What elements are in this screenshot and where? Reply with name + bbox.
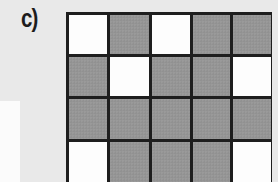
grid-cell-r1-c1-white (69, 15, 107, 54)
grid-cell-r4-c1-white (69, 142, 107, 182)
side-panel-fragment (0, 101, 20, 182)
grid-cell-r3-c1-gray (69, 99, 107, 139)
grid-cell-r1-c4-gray (193, 15, 230, 54)
grid-cell-r3-c5-gray (233, 99, 271, 139)
shaded-grid (66, 12, 272, 182)
grid-cell-r1-c5-gray (233, 15, 271, 54)
grid-cell-r2-c2-white (110, 57, 149, 96)
grid-cell-r2-c1-gray (69, 57, 107, 96)
grid-cell-r3-c4-gray (193, 99, 230, 139)
grid-cell-r3-c3-gray (152, 99, 190, 139)
grid-cell-r4-c5-white (233, 142, 271, 182)
figure-label: c) (21, 4, 38, 33)
grid-cell-r2-c5-white (233, 57, 271, 96)
grid-cell-r4-c2-gray (110, 142, 149, 182)
grid-cell-r2-c3-gray (152, 57, 190, 96)
grid-cell-r1-c3-white (152, 15, 190, 54)
grid-cell-r1-c2-gray (110, 15, 149, 54)
grid-cell-r3-c2-gray (110, 99, 149, 139)
grid-cell-r2-c4-gray (193, 57, 230, 96)
grid-cell-r4-c3-gray (152, 142, 190, 182)
grid-cell-r4-c4-gray (193, 142, 230, 182)
